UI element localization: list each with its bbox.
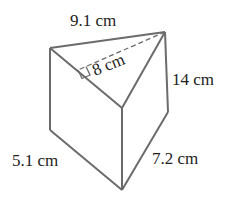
label-right-side: 7.2 cm bbox=[152, 149, 198, 168]
edge-top-right-to-front-top bbox=[122, 32, 165, 108]
label-top-edge: 9.1 cm bbox=[70, 11, 116, 30]
label-left-side: 5.1 cm bbox=[12, 151, 58, 170]
label-altitude: 8 cm bbox=[89, 50, 127, 80]
label-prism-length: 14 cm bbox=[172, 70, 214, 89]
edge-right-vertical bbox=[165, 32, 168, 112]
prism-diagram: 9.1 cm 8 cm 14 cm 5.1 cm 7.2 cm bbox=[0, 0, 233, 197]
edge-bottom-left bbox=[50, 130, 122, 190]
